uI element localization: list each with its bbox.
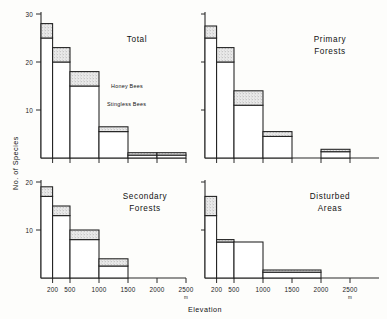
x-ticklabel-1000: 1000 (91, 286, 106, 293)
x-ticklabel-1500: 1500 (120, 286, 135, 293)
y-ticklabel-10-secondary: 10 (25, 227, 33, 234)
bar-secondary-1000-1500-stingless (99, 266, 128, 278)
bar-secondary-0-200-stingless (41, 196, 53, 278)
panel-title-secondary-line1: Secondary (123, 192, 168, 201)
x-ticklabel-200-right: 200 (211, 286, 223, 293)
bar-disturbed-200-500-honey (217, 240, 234, 242)
panel-title-disturbed-line2: Areas (318, 204, 342, 213)
bar-primary-1000-1500-stingless (263, 136, 292, 158)
x-ticklabel-2500-right: 2500 (342, 286, 357, 293)
bar-total-500-1000-stingless (70, 86, 99, 158)
bar-total-500-1000-honey (70, 72, 99, 86)
bar-disturbed-1000-2000-honey (263, 270, 321, 272)
x-ticklabel-200: 200 (47, 286, 59, 293)
bar-secondary-0-200-honey (41, 187, 53, 197)
bar-disturbed-1000-2000-stingless (263, 272, 321, 278)
legend-label-stingless: Stingless Bees (107, 101, 146, 107)
bar-primary-2000-2500-honey (321, 149, 350, 151)
bars-secondary (41, 187, 128, 278)
bar-secondary-200-500-honey (53, 206, 70, 216)
x-axis-title: Elevation (188, 305, 222, 314)
bar-primary-0-200-honey (205, 26, 217, 38)
bar-total-1000-1500-stingless (99, 132, 128, 158)
y-ticklabel-20-secondary: 20 (25, 179, 33, 186)
panel-disturbed-areas: 200 500 1000 1500 2000 2500 m Disturbed … (201, 180, 379, 300)
bar-primary-200-500-stingless (217, 62, 234, 158)
bar-total-0-200-stingless (41, 38, 53, 158)
bar-disturbed-0-200-honey (205, 196, 217, 215)
bars-total (41, 24, 186, 158)
x-ticklabel-1000-right: 1000 (255, 286, 270, 293)
bars-primary (205, 26, 350, 158)
bar-disturbed-0-200-stingless (205, 216, 217, 278)
legend: Honey Bees Stingless Bees (107, 83, 146, 107)
bar-primary-1000-1500-honey (263, 132, 292, 137)
y-ticklabel-10-total: 10 (25, 107, 33, 114)
panel-primary-forests: Primary Forests (201, 12, 379, 163)
bar-secondary-200-500-stingless (53, 216, 70, 278)
bar-total-200-500-honey (53, 48, 70, 62)
panel-secondary-forests: 20 10 200 500 1000 1500 2000 2500 m (25, 179, 193, 300)
bar-disturbed-500-1000-stingless (234, 242, 263, 278)
bar-primary-500-1000-stingless (234, 105, 263, 158)
x-ticklabel-500: 500 (64, 286, 76, 293)
panel-title-primary-line2: Forests (314, 47, 346, 56)
bars-disturbed (205, 196, 321, 278)
bar-primary-200-500-honey (217, 48, 234, 62)
y-ticklabel-20-total: 20 (25, 59, 33, 66)
bar-disturbed-200-500-stingless (217, 242, 234, 278)
x-ticklabel-2000-right: 2000 (313, 286, 328, 293)
x-ticklabel-2000: 2000 (149, 286, 164, 293)
bar-secondary-500-1000-stingless (70, 240, 99, 278)
panel-total: 30 20 10 (25, 11, 186, 164)
figure-canvas: 30 20 10 (0, 0, 387, 319)
panel-title-secondary-line2: Forests (129, 204, 161, 213)
bar-primary-0-200-stingless (205, 38, 217, 158)
bar-total-200-500-stingless (53, 62, 70, 158)
bar-total-0-200-honey (41, 24, 53, 38)
bar-total-1500-2000-honey (128, 153, 157, 155)
x-ticklabel-500-right: 500 (228, 286, 240, 293)
bar-secondary-1000-1500-honey (99, 259, 128, 266)
legend-label-honey: Honey Bees (111, 83, 143, 89)
y-axis-title: No. of Species (11, 136, 20, 190)
x-unit-label-right: m (348, 295, 352, 300)
bar-primary-2000-2500-stingless (321, 152, 350, 158)
bar-primary-500-1000-honey (234, 91, 263, 105)
x-unit-label-left: m (184, 295, 188, 300)
x-ticklabel-1500-right: 1500 (284, 286, 299, 293)
panel-title-primary-line1: Primary (314, 35, 347, 44)
x-ticklabel-2500: 2500 (178, 286, 193, 293)
bar-total-1000-1500-honey (99, 127, 128, 132)
bar-secondary-500-1000-honey (70, 230, 99, 240)
figure-bee-species-elevation: 30 20 10 (0, 0, 387, 319)
bar-total-2000-2500-honey (157, 153, 186, 155)
panel-title-disturbed-line1: Disturbed (310, 192, 350, 201)
y-ticklabel-30-total: 30 (25, 11, 33, 18)
panel-title-total: Total (127, 35, 147, 44)
